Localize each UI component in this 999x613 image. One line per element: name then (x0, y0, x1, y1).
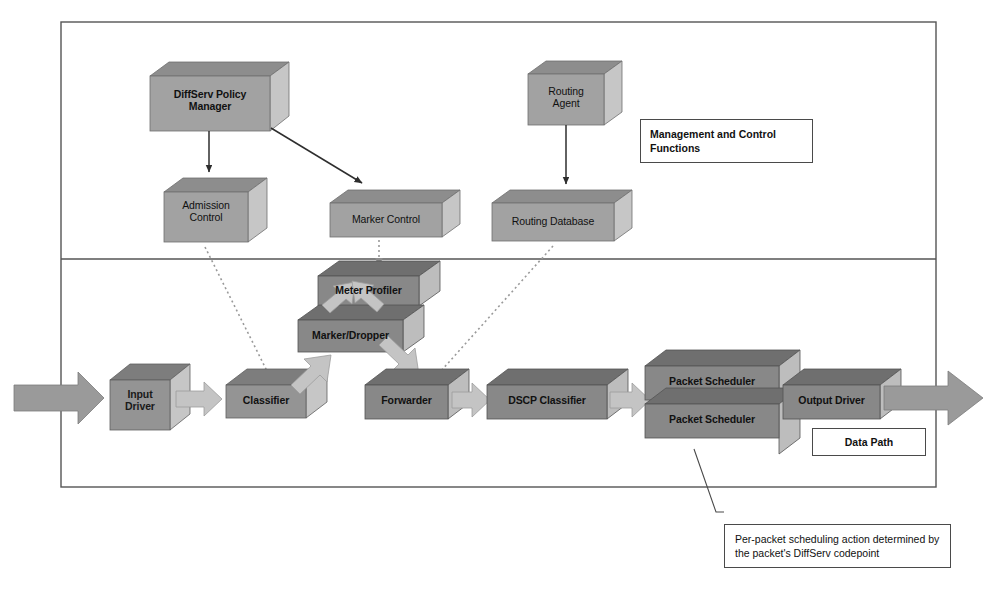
node-dscp-classifier[interactable] (487, 369, 628, 419)
node-routing-database[interactable] (492, 190, 632, 241)
link-admission-to-classifier (205, 247, 272, 381)
node-output-driver[interactable] (783, 369, 901, 419)
diagram-svg (0, 0, 999, 613)
node-marker-dropper[interactable] (298, 305, 424, 352)
node-diffserv-policy-manager[interactable] (150, 62, 289, 131)
node-admission-control[interactable] (164, 178, 267, 242)
node-routing-agent[interactable] (528, 61, 622, 125)
inbound-traffic-arrow (14, 372, 104, 424)
link-policy-to-marker-control (271, 128, 362, 183)
section-label-management: Management and Control Functions (640, 119, 813, 163)
node-marker-control[interactable] (330, 190, 460, 237)
scheduling-callout: Per-packet scheduling action determined … (724, 524, 951, 568)
callout-leader-line (694, 449, 724, 512)
section-label-data-path: Data Path (812, 428, 926, 456)
diagram-canvas: DiffServ Policy Manager Admission Contro… (0, 0, 999, 613)
link-routing-db-to-forwarder (432, 246, 553, 381)
node-packet-scheduler-2[interactable] (645, 388, 800, 454)
